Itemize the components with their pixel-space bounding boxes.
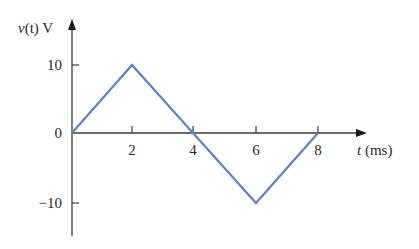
ytick-label-m10: −10 [39,195,62,211]
waveform-line [72,65,318,203]
x-axis-label: t (ms) [357,142,392,159]
y-axis-arrow-icon [68,19,76,30]
y-axis-label-rest: (t) V [25,20,54,37]
chart-canvas: 10 0 −10 2 4 6 8 v(t) V t (ms) [0,0,419,249]
ytick-label-0: 0 [55,125,63,141]
xtick-label-8: 8 [314,142,322,158]
xtick-label-2: 2 [128,142,136,158]
xtick-label-4: 4 [189,142,197,158]
y-axis-label: v(t) V [18,20,53,37]
xtick-label-6: 6 [252,142,260,158]
ytick-label-10: 10 [47,57,62,73]
x-axis-arrow-icon [356,129,367,137]
x-axis-label-rest: (ms) [361,142,392,159]
